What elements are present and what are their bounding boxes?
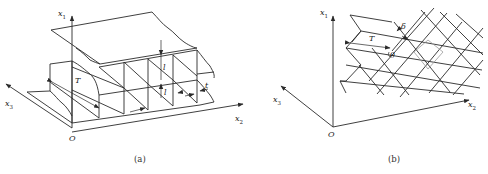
caption-b: (b) [388,155,400,164]
dimension-l-horizontal-label: l [164,89,167,97]
dimension-l-horizontal [130,92,183,112]
dimension-t-label: t [205,82,208,90]
panel-b-triangular-lattice: x1 x2 x3 O T δ θ (b) [244,0,488,174]
panel-a-square-honeycomb: x1 x2 x3 O T l l t (a) [0,0,244,174]
bottom-face-sheet [27,91,200,123]
origin-label-a: O [69,135,76,143]
dimension-l-vertical-label: l [163,64,166,72]
origin-label-b: O [328,131,335,139]
x2-axis-label-a: x2 [235,115,243,125]
dimension-T-label-a: T [75,77,80,85]
top-face-sheet [51,12,197,64]
axes-a [6,16,243,132]
dimension-theta-label: θ [390,52,395,60]
x3-axis-label-b: x3 [273,96,281,106]
lattice-left-edge [340,15,361,93]
dimension-T-label-b: T [369,35,374,43]
triangular-lattice-drawing [244,0,488,174]
x1-axis-label-a: x1 [58,10,66,20]
x2-axis [333,100,469,127]
x2-axis [72,104,243,132]
caption-a: (a) [134,155,146,164]
dimension-delta-label: δ [401,23,406,31]
dimension-t [185,89,208,96]
x3-axis [281,86,333,127]
x1-axis-label-b: x1 [320,9,328,19]
dimension-T-b [350,43,390,48]
honeycomb-core [50,50,214,123]
dimension-T-a [52,82,99,108]
x2-axis-label-b: x2 [468,101,476,111]
axes-b [281,16,469,127]
x3-axis-label-a: x3 [5,100,13,110]
